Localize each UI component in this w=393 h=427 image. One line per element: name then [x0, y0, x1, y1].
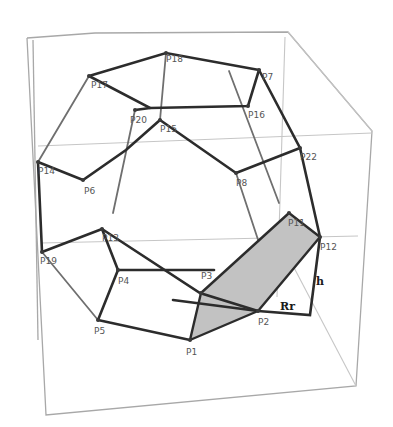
label-p22: P22: [300, 152, 317, 162]
front-edges: [38, 53, 320, 340]
label-p7: P7: [262, 72, 273, 82]
h-annotation: h: [316, 275, 324, 288]
label-p20: P20: [130, 115, 147, 125]
label-p15: P15: [160, 124, 177, 134]
dodecahedron-diagram: P18 P17 P7 P16 P20 P15 P22 P8 P14 P6 P13…: [0, 0, 393, 427]
bounding-box: [27, 32, 372, 415]
label-p8: P8: [236, 178, 247, 188]
rt-annotation: Rr: [280, 300, 295, 313]
label-p6: P6: [84, 186, 95, 196]
label-p19: P19: [40, 256, 57, 266]
label-p14: P14: [38, 166, 55, 176]
label-p18: P18: [166, 54, 183, 64]
label-p5: P5: [94, 326, 105, 336]
annotations: Rr h: [280, 275, 324, 313]
label-p3: P3: [201, 271, 212, 281]
label-p1: P1: [186, 347, 197, 357]
label-p13: P13: [102, 233, 119, 243]
label-p2: P2: [258, 317, 269, 327]
label-p17: P17: [91, 80, 108, 90]
label-p4: P4: [118, 276, 129, 286]
label-p11: P11: [288, 218, 305, 228]
label-p16: P16: [248, 110, 265, 120]
label-p12: P12: [320, 242, 337, 252]
